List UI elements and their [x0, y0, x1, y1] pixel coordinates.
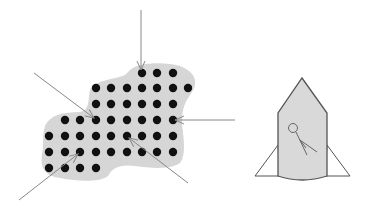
- diagram-canvas: [0, 0, 367, 207]
- grid-dot: [169, 100, 177, 108]
- grid-dot: [45, 132, 53, 140]
- grid-dot: [153, 116, 161, 124]
- grid-dot: [138, 148, 146, 156]
- grid-dot: [123, 148, 131, 156]
- grid-dot: [138, 100, 146, 108]
- grid-dot: [107, 84, 115, 92]
- grid-dot: [153, 148, 161, 156]
- grid-dot: [61, 116, 69, 124]
- grid-dot: [107, 148, 115, 156]
- grid-dot: [107, 116, 115, 124]
- grid-dot: [92, 132, 100, 140]
- grid-dot: [123, 84, 131, 92]
- grid-dot: [61, 148, 69, 156]
- grid-dot: [169, 84, 177, 92]
- rocket-fin-right: [325, 145, 350, 176]
- grid-dot: [153, 69, 161, 77]
- grid-dot: [169, 69, 177, 77]
- grid-dot: [153, 84, 161, 92]
- grid-dot: [61, 164, 69, 172]
- grid-dot: [45, 148, 53, 156]
- grid-dot: [138, 84, 146, 92]
- grid-dot: [92, 148, 100, 156]
- grid-dot: [138, 132, 146, 140]
- grid-dot: [123, 116, 131, 124]
- grid-dot: [92, 164, 100, 172]
- grid-dot: [153, 100, 161, 108]
- grid-dot: [76, 164, 84, 172]
- grid-dot: [76, 132, 84, 140]
- grid-dot: [138, 69, 146, 77]
- grid-dot: [169, 132, 177, 140]
- grid-dot: [61, 132, 69, 140]
- grid-dot: [123, 100, 131, 108]
- grid-dot: [153, 132, 161, 140]
- rocket: [255, 78, 350, 180]
- rocket-fin-left: [255, 145, 280, 176]
- grid-dot: [184, 84, 192, 92]
- grid-dot: [107, 132, 115, 140]
- grid-dot: [92, 84, 100, 92]
- grid-dot: [107, 100, 115, 108]
- grid-dot: [92, 100, 100, 108]
- grid-dot: [45, 164, 53, 172]
- arrow-top-left-icon: [34, 73, 94, 118]
- grid-dot: [76, 116, 84, 124]
- grid-dot: [138, 116, 146, 124]
- grid-dot: [169, 148, 177, 156]
- rocket-body: [278, 78, 327, 180]
